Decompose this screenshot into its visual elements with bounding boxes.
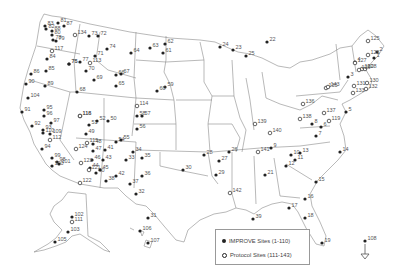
- legend-protocol-label: Protocol Sites (111-143): [230, 252, 292, 258]
- site-label: 143: [331, 81, 340, 87]
- site-marker: [289, 153, 292, 156]
- site-label: 45: [103, 164, 109, 170]
- site-label: 105: [58, 236, 67, 242]
- site-label: 5: [349, 106, 352, 112]
- site-marker: [70, 220, 74, 224]
- site-marker: [231, 48, 234, 51]
- site-marker: [129, 51, 132, 54]
- site-marker: [57, 162, 60, 165]
- site-marker: [256, 150, 260, 154]
- site-marker: [353, 61, 357, 65]
- site-marker: [103, 148, 106, 151]
- site-label: 91: [25, 106, 31, 112]
- site-label: 68: [80, 86, 86, 92]
- site-marker: [50, 164, 53, 167]
- site-label: 123: [84, 157, 93, 163]
- filled-dot-icon: [222, 239, 226, 243]
- site-label: 129: [362, 64, 371, 70]
- site-label: 71: [98, 50, 104, 56]
- site-label: 79: [59, 35, 65, 41]
- site-label: 92: [35, 120, 41, 126]
- site-label: 133: [356, 87, 365, 93]
- site-marker: [268, 131, 272, 135]
- improve-site-markers: 1234567891011121314151617181921222324252…: [20, 17, 382, 245]
- site-label: 39: [256, 213, 262, 219]
- site-marker: [351, 91, 355, 95]
- site-marker: [40, 147, 43, 150]
- site-marker: [78, 181, 82, 185]
- site-marker: [119, 72, 122, 75]
- site-label: 3: [351, 71, 354, 77]
- site-marker: [84, 132, 87, 135]
- site-label: 136: [306, 98, 315, 104]
- site-label: 18: [308, 212, 314, 218]
- site-label: 127: [358, 57, 367, 63]
- site-marker: [26, 96, 29, 99]
- site-marker: [84, 69, 87, 72]
- site-marker: [44, 27, 47, 30]
- site-label: 87: [67, 20, 73, 26]
- site-label: 8: [315, 118, 318, 124]
- legend-improve: IMPROVE Sites (1-110): [222, 238, 290, 244]
- site-marker: [87, 168, 91, 172]
- site-marker: [140, 174, 143, 177]
- site-marker: [135, 104, 139, 108]
- site-marker: [128, 182, 131, 185]
- site-label: 114: [140, 100, 149, 106]
- site-label: 24: [223, 41, 229, 47]
- site-marker: [41, 131, 44, 134]
- site-marker: [78, 114, 82, 118]
- site-label: 42: [119, 170, 125, 176]
- site-marker: [135, 114, 138, 117]
- site-label: 113: [93, 57, 102, 63]
- site-label: 61: [166, 47, 172, 53]
- site-marker: [106, 119, 109, 122]
- site-marker: [303, 197, 306, 200]
- site-label: 104: [31, 92, 40, 98]
- site-label: 16: [308, 193, 314, 199]
- site-marker: [66, 230, 69, 233]
- site-marker: [124, 158, 127, 161]
- site-marker: [163, 42, 166, 45]
- site-label: 139: [258, 118, 267, 124]
- site-marker: [43, 84, 46, 87]
- site-label: 9: [274, 142, 277, 148]
- site-marker: [48, 138, 52, 142]
- site-marker: [43, 24, 46, 27]
- map-legend: IMPROVE Sites (1-110) Protocol Sites (11…: [215, 229, 310, 265]
- site-label: 119: [332, 115, 341, 121]
- site-label: 34: [136, 146, 142, 152]
- site-label: 41: [108, 144, 114, 150]
- site-label: 15: [319, 176, 325, 182]
- site-label: 112: [53, 134, 62, 140]
- site-marker: [101, 158, 104, 161]
- site-label: 31: [151, 212, 157, 218]
- site-label: 14: [343, 146, 349, 152]
- site-label: 111: [75, 216, 83, 222]
- site-label: 36: [145, 170, 151, 176]
- site-label: 73: [92, 30, 98, 36]
- site-marker: [301, 102, 305, 106]
- site-label: 59: [168, 81, 174, 87]
- site-marker: [338, 150, 341, 153]
- site-label: 77: [83, 56, 89, 62]
- site-label: 137: [327, 107, 336, 113]
- site-label: 38: [109, 175, 115, 181]
- site-marker: [53, 240, 56, 243]
- site-label: 125: [371, 35, 380, 41]
- site-label: 30: [186, 164, 192, 170]
- site-marker: [104, 179, 107, 182]
- site-marker: [87, 34, 90, 37]
- site-marker: [134, 192, 137, 195]
- site-label: 122: [83, 177, 92, 183]
- site-marker: [269, 146, 272, 149]
- site-label: 117: [55, 45, 64, 51]
- site-label: 33: [129, 154, 135, 160]
- site-marker: [155, 89, 158, 92]
- site-label: 83: [48, 20, 54, 26]
- site-marker: [70, 215, 73, 218]
- site-marker: [30, 124, 33, 127]
- site-marker: [363, 239, 366, 242]
- site-marker: [346, 75, 349, 78]
- site-marker: [78, 60, 81, 63]
